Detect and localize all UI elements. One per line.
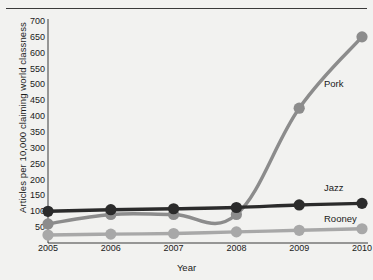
data-point-rooney — [294, 225, 305, 236]
series-layer — [42, 31, 367, 240]
data-point-jazz — [231, 202, 242, 213]
x-tick-label: 2007 — [164, 243, 184, 253]
data-point-rooney — [105, 229, 116, 240]
series-label-jazz: Jazz — [324, 182, 344, 193]
line-chart: Articles per 10,000 claiming world class… — [0, 0, 373, 280]
data-point-rooney — [42, 229, 53, 240]
data-point-pork — [42, 218, 53, 229]
series-line-jazz — [48, 203, 362, 211]
x-axis-title: Year — [0, 262, 373, 273]
data-point-jazz — [105, 204, 116, 215]
series-label-rooney: Rooney — [324, 213, 357, 224]
data-point-jazz — [294, 199, 305, 210]
data-point-jazz — [168, 203, 179, 214]
x-tick-label: 2010 — [352, 243, 372, 253]
x-tick-label: 2008 — [226, 243, 246, 253]
x-tick-label: 2005 — [38, 243, 58, 253]
data-point-jazz — [356, 198, 367, 209]
data-point-pork — [294, 103, 305, 114]
series-line-pork — [48, 37, 362, 224]
series-label-pork: Pork — [324, 78, 344, 89]
series-line-rooney — [48, 229, 362, 235]
data-point-jazz — [42, 206, 53, 217]
data-point-rooney — [356, 223, 367, 234]
plot-area — [0, 0, 373, 280]
data-point-pork — [356, 31, 367, 42]
x-tick-label: 2006 — [101, 243, 121, 253]
data-point-rooney — [231, 226, 242, 237]
x-tick-label: 2009 — [289, 243, 309, 253]
data-point-rooney — [168, 228, 179, 239]
